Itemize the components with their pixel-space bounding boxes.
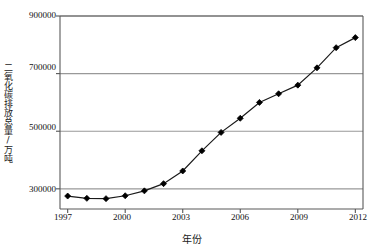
data-point-1997 xyxy=(65,193,71,199)
gridlines-group xyxy=(60,16,363,189)
data-point-1998 xyxy=(84,195,90,201)
data-point-2012 xyxy=(352,35,358,41)
plot-frame xyxy=(60,16,363,209)
chart-container: 二氧化碳排放总量/万吨 900000 700000 500000 300000 … xyxy=(0,0,383,252)
data-point-2008 xyxy=(276,91,282,97)
series-markers-group xyxy=(65,35,359,202)
x-tick-marks-group xyxy=(68,209,356,213)
chart-plot-area xyxy=(0,0,383,252)
data-point-1999 xyxy=(103,196,109,202)
y-tick-marks-group xyxy=(56,16,60,189)
data-point-2000 xyxy=(122,193,128,199)
series-line-co2 xyxy=(68,38,356,199)
